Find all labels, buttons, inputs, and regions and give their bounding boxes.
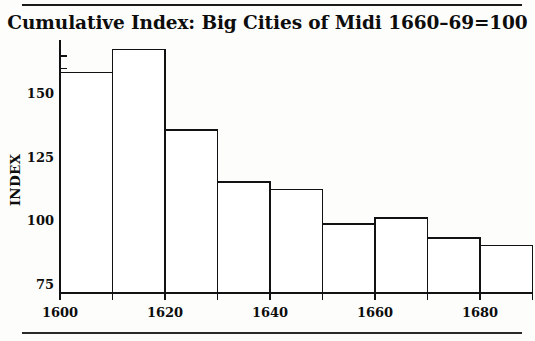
y-tick-label-125: 125 bbox=[27, 150, 54, 165]
x-tick-label-1680: 1680 bbox=[462, 305, 498, 320]
y-axis-title: INDEX bbox=[7, 153, 23, 206]
x-tick-label-1600: 1600 bbox=[42, 305, 78, 320]
bar-chart-plot: 150 125 100 75 INDEX bbox=[0, 0, 535, 341]
bar-1650 bbox=[323, 224, 376, 293]
x-axis-ticks bbox=[60, 293, 533, 300]
bar-1620 bbox=[165, 130, 218, 293]
y-tick-label-150: 150 bbox=[27, 86, 54, 101]
bar-1660 bbox=[375, 218, 428, 293]
y-tick-label-75: 75 bbox=[36, 277, 54, 292]
bottom-rule-divider bbox=[22, 332, 522, 334]
bar-1680 bbox=[480, 246, 533, 294]
x-tick-label-1620: 1620 bbox=[147, 305, 183, 320]
x-tick-label-1640: 1640 bbox=[252, 305, 288, 320]
figure-page: Cumulative Index: Big Cities of Midi 166… bbox=[0, 0, 535, 341]
bar-1600 bbox=[60, 73, 113, 294]
y-tick-label-100: 100 bbox=[27, 213, 54, 228]
bar-series bbox=[60, 50, 533, 293]
bar-1630 bbox=[218, 182, 271, 293]
chart-svg: 150 125 100 75 INDEX bbox=[0, 0, 535, 341]
x-tick-label-1660: 1660 bbox=[357, 305, 393, 320]
bar-1640 bbox=[270, 190, 323, 293]
bar-1610 bbox=[113, 50, 166, 293]
bar-1670 bbox=[428, 238, 481, 293]
